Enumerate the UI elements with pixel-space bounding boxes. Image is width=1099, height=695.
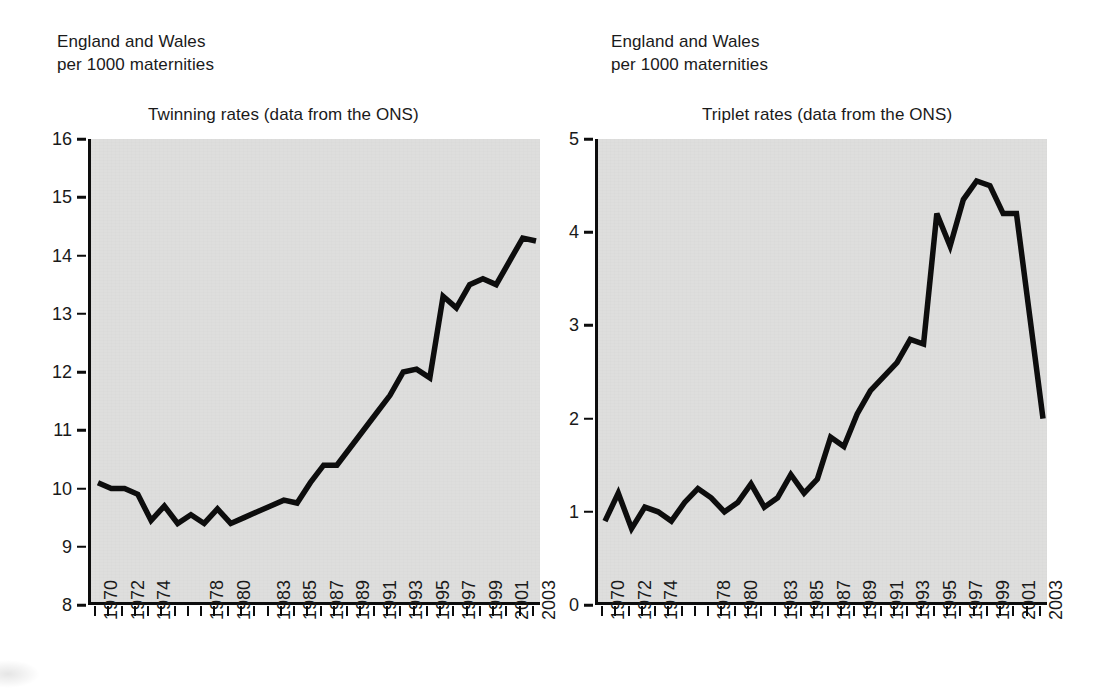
left-x-tick-label: 1983 [275,580,293,620]
left-y-tick-label: 12 [52,363,72,381]
right-x-tick-mark [734,606,736,616]
right-x-tick-mark [667,606,669,616]
right-x-tick-mark [720,606,722,616]
right-x-tick-label: 1978 [715,580,733,620]
right-y-tick-label: 1 [569,503,579,521]
left-y-tick-label: 13 [52,305,72,323]
left-x-tick-label: 1987 [328,580,346,620]
right-y-tick-mark [584,511,593,514]
left-x-tick-mark [386,606,388,616]
left-x-tick-mark [359,606,361,616]
right-caption: England and Wales per 1000 maternities [611,30,768,76]
left-x-tick-label: 1989 [354,580,372,620]
right-x-tick-mark [880,606,882,616]
right-x-tick-label: 1985 [808,580,826,620]
twinning-series-line [91,139,543,605]
left-x-tick-label: 1991 [381,580,399,620]
right-x-tick-label: 1983 [782,580,800,620]
right-y-axis: 012345 [547,139,593,605]
left-x-tick-mark [187,606,189,616]
left-y-tick-mark [77,196,86,199]
left-x-tick-mark [333,606,335,616]
left-y-tick-label: 14 [52,247,72,265]
left-y-tick-mark [77,371,86,374]
right-x-tick-label: 1999 [994,580,1012,620]
left-x-tick-label: 1985 [301,580,319,620]
right-x-tick-mark [866,606,868,616]
left-x-tick-mark [174,606,176,616]
right-x-tick-label: 1974 [662,580,680,620]
right-x-tick-mark [707,606,709,616]
left-x-tick-mark [346,606,348,616]
left-x-tick-mark [160,606,162,616]
left-x-tick-mark [452,606,454,616]
right-x-tick-mark [1026,606,1028,616]
left-y-tick-label: 16 [52,130,72,148]
right-x-tick-mark [760,606,762,616]
left-x-tick-label: 1978 [208,580,226,620]
right-x-tick-mark [999,606,1001,616]
left-x-tick-mark [253,606,255,616]
left-y-tick-label: 9 [62,538,72,556]
figure-page: England and Wales per 1000 maternities T… [0,0,1099,695]
right-x-tick-label: 1993 [914,580,932,620]
right-x-tick-mark [827,606,829,616]
left-x-tick-mark [94,606,96,616]
right-x-tick-label: 1997 [967,580,985,620]
left-y-tick-mark [77,487,86,490]
left-x-tick-mark [227,606,229,616]
left-x-tick-label: 1995 [434,580,452,620]
right-x-tick-mark [787,606,789,616]
left-y-tick-label: 15 [52,188,72,206]
left-plot-area [88,139,540,605]
right-x-tick-mark [893,606,895,616]
left-x-tick-mark [413,606,415,616]
left-x-tick-mark [121,606,123,616]
right-x-tick-mark [813,606,815,616]
left-x-tick-mark [492,606,494,616]
right-x-tick-mark [800,606,802,616]
right-chart-title: Triplet rates (data from the ONS) [702,105,952,125]
left-x-axis: 1970197219741978198019831985198719891991… [88,606,540,695]
left-x-tick-mark [479,606,481,616]
right-x-tick-mark [853,606,855,616]
right-y-tick-mark [584,604,593,607]
right-y-tick-mark [584,138,593,141]
right-x-tick-label: 1980 [742,580,760,620]
right-x-tick-label: 1972 [636,580,654,620]
left-y-tick-mark [77,604,86,607]
left-x-tick-mark [107,606,109,616]
left-x-tick-mark [306,606,308,616]
right-x-tick-mark [906,606,908,616]
right-y-tick-mark [584,324,593,327]
left-x-tick-label: 1993 [407,580,425,620]
right-y-tick-label: 3 [569,316,579,334]
right-plot-area [595,139,1047,605]
right-x-tick-mark [694,606,696,616]
right-y-tick-label: 2 [569,410,579,428]
right-y-tick-mark [584,417,593,420]
left-y-axis: 8910111213141516 [40,139,86,605]
left-y-tick-mark [77,313,86,316]
left-x-tick-label: 1980 [235,580,253,620]
left-x-tick-label: 1970 [102,580,120,620]
right-x-tick-mark [641,606,643,616]
left-x-tick-mark [293,606,295,616]
left-y-tick-mark [77,546,86,549]
left-caption: England and Wales per 1000 maternities [57,30,214,76]
left-x-tick-mark [240,606,242,616]
left-y-tick-label: 10 [52,480,72,498]
right-y-tick-label: 4 [569,223,579,241]
right-x-tick-mark [628,606,630,616]
right-y-tick-mark [584,231,593,234]
left-x-tick-mark [320,606,322,616]
left-x-tick-mark [439,606,441,616]
right-x-tick-mark [973,606,975,616]
right-x-tick-mark [614,606,616,616]
left-x-tick-label: 1997 [460,580,478,620]
left-y-tick-mark [77,138,86,141]
left-x-tick-mark [280,606,282,616]
right-x-tick-label: 2001 [1020,580,1038,620]
left-x-tick-mark [505,606,507,616]
right-y-tick-label: 5 [569,130,579,148]
